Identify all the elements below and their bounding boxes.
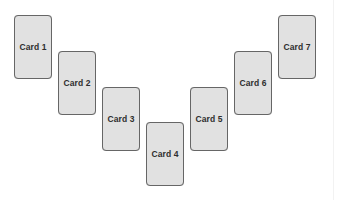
card-1-label: Card 1 — [19, 42, 46, 52]
card-7-label: Card 7 — [283, 42, 310, 52]
card-diagram: Card 1 Card 2 Card 3 Card 4 Card 5 Card … — [0, 0, 337, 200]
card-4-label: Card 4 — [151, 149, 178, 159]
card-2-label: Card 2 — [63, 78, 90, 88]
card-5: Card 5 — [190, 87, 228, 151]
card-3: Card 3 — [102, 87, 140, 151]
card-6: Card 6 — [234, 51, 272, 115]
card-5-label: Card 5 — [195, 114, 222, 124]
page-edge-divider — [333, 0, 334, 200]
card-1: Card 1 — [14, 15, 52, 79]
card-3-label: Card 3 — [107, 114, 134, 124]
card-6-label: Card 6 — [239, 78, 266, 88]
card-2: Card 2 — [58, 51, 96, 115]
card-4: Card 4 — [146, 122, 184, 186]
card-7: Card 7 — [278, 15, 316, 79]
